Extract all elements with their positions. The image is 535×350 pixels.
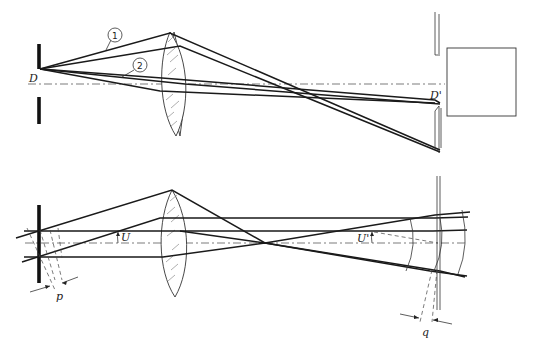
- top-diagram: 1 2 D D': [28, 12, 516, 153]
- lens-bottom: [161, 190, 187, 297]
- svg-text:1: 1: [112, 31, 118, 41]
- object-pupil-construction: [27, 228, 78, 292]
- angle-U-marker: [116, 232, 120, 243]
- ray-2-marker: 2: [122, 58, 147, 77]
- rays-top: [40, 33, 440, 152]
- label-U-prime: U': [357, 232, 369, 245]
- image-slit: [435, 12, 441, 153]
- angle-U-prime-marker: [370, 232, 374, 243]
- bottom-diagram: p U U' q: [16, 176, 470, 339]
- detector-box: [447, 48, 516, 116]
- label-D-prime: D': [429, 89, 442, 102]
- label-D: D: [28, 72, 38, 85]
- label-q: q: [422, 326, 429, 339]
- svg-text:2: 2: [137, 61, 143, 71]
- label-p: p: [56, 290, 63, 303]
- optical-diagram: 1 2 D D': [0, 0, 535, 350]
- rays-bottom: [16, 190, 470, 277]
- label-U: U: [121, 231, 131, 244]
